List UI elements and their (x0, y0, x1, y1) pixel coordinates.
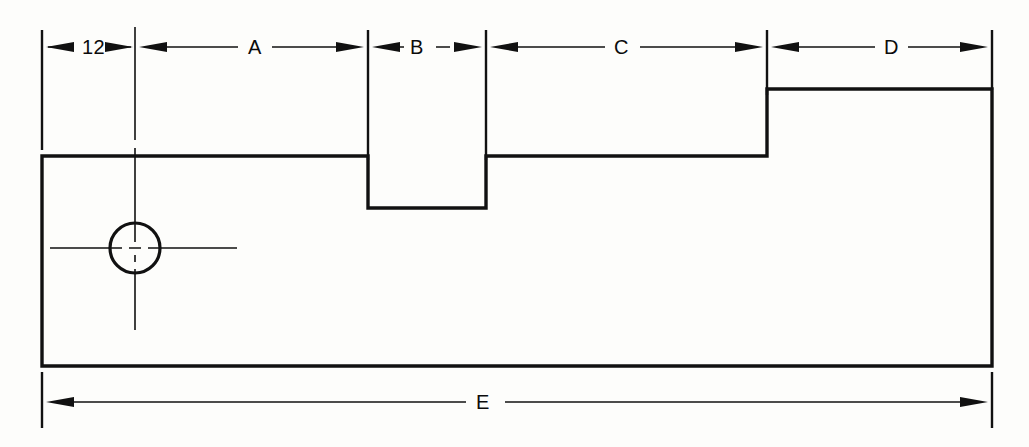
dim-b-arrow-left (372, 42, 400, 52)
dimension-e: E (46, 391, 988, 413)
dim-d-arrow-left (771, 42, 799, 52)
dim-12-arrow-right (105, 42, 133, 52)
dim-d-label: D (884, 36, 899, 58)
dimension-d: D (771, 36, 988, 58)
part-outline (42, 89, 992, 366)
dim-d-arrow-right (960, 42, 988, 52)
dimension-12: 12 (46, 36, 133, 58)
dim-c-label: C (614, 36, 629, 58)
dim-e-arrow-left (46, 397, 74, 407)
dim-12-label: 12 (82, 36, 105, 58)
drawing-svg: 12 A B C (0, 0, 1029, 447)
dim-c-arrow-right (735, 42, 763, 52)
dimension-c: C (490, 36, 763, 58)
dim-12-arrow-left (46, 42, 74, 52)
dimension-a: A (139, 36, 364, 58)
hole-group (50, 27, 237, 330)
dim-a-arrow-left (139, 42, 167, 52)
dim-a-arrow-right (336, 42, 364, 52)
dim-e-label: E (476, 391, 490, 413)
dimension-b: B (372, 36, 482, 58)
dim-b-arrow-right (454, 42, 482, 52)
engineering-drawing-canvas: 12 A B C (0, 0, 1029, 447)
dim-b-label: B (410, 36, 424, 58)
dim-c-arrow-left (490, 42, 518, 52)
dim-e-arrow-right (960, 397, 988, 407)
dim-a-label: A (248, 36, 262, 58)
